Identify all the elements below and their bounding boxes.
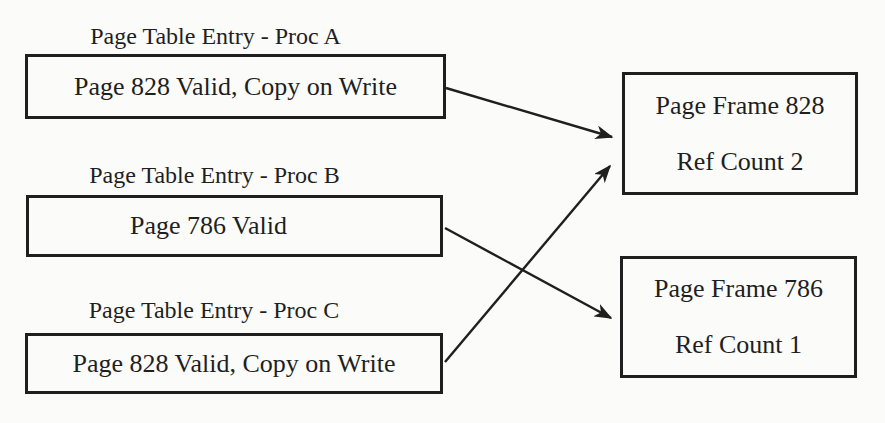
pte-proc-c-content: Page 828 Valid, Copy on Write bbox=[73, 349, 396, 379]
pte-proc-a-label: Page Table Entry - Proc A bbox=[25, 22, 446, 50]
page-frame-786-ref-count: Ref Count 1 bbox=[675, 331, 802, 359]
pte-proc-b-box: Page 786 Valid bbox=[26, 195, 443, 257]
arrow-pte-proc-c-to-page-frame-828 bbox=[445, 166, 610, 362]
copy-on-write-diagram: Page Table Entry - Proc A Page 828 Valid… bbox=[0, 0, 885, 423]
pte-proc-c-box: Page 828 Valid, Copy on Write bbox=[25, 333, 443, 394]
pte-proc-a-box: Page 828 Valid, Copy on Write bbox=[25, 54, 446, 119]
page-frame-828-box: Page Frame 828 Ref Count 2 bbox=[622, 72, 858, 195]
pte-proc-b-content: Page 786 Valid bbox=[130, 211, 287, 241]
page-frame-786-box: Page Frame 786 Ref Count 1 bbox=[620, 256, 857, 378]
arrow-pte-proc-b-to-page-frame-786 bbox=[445, 228, 611, 318]
arrow-pte-proc-a-to-page-frame-828 bbox=[446, 88, 612, 137]
page-frame-828-title: Page Frame 828 bbox=[656, 92, 825, 120]
page-frame-786-title: Page Frame 786 bbox=[654, 275, 823, 303]
page-frame-828-ref-count: Ref Count 2 bbox=[676, 148, 803, 176]
pte-proc-a-content: Page 828 Valid, Copy on Write bbox=[74, 72, 397, 102]
pte-proc-c-label: Page Table Entry - Proc C bbox=[25, 296, 443, 324]
pte-proc-b-label: Page Table Entry - Proc B bbox=[26, 161, 443, 189]
